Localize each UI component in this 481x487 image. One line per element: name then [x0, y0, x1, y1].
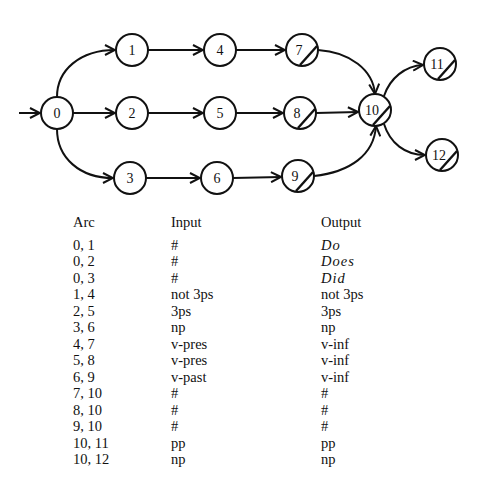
state-label: 0 — [54, 106, 61, 121]
edge-10-11 — [384, 65, 423, 96]
output-cell: Did — [321, 270, 441, 287]
arc-cell: 8, 10 — [73, 402, 171, 419]
input-cell: # — [171, 237, 321, 254]
table-row: 4, 7v-presv-inf — [73, 336, 441, 353]
table-row: 5, 8v-presv-inf — [73, 352, 441, 369]
arc-cell: 6, 9 — [73, 369, 171, 386]
output-cell: np — [321, 451, 441, 468]
input-cell: pp — [171, 435, 321, 452]
input-cell: # — [171, 270, 321, 287]
state-node-6: 6 — [201, 162, 233, 194]
input-cell: # — [171, 402, 321, 419]
arc-table: Arc Input Output 0, 1#Do 0, 2#Does 0, 3#… — [73, 214, 441, 468]
output-cell: v-inf — [321, 352, 441, 369]
output-cell: np — [321, 319, 441, 336]
header-output: Output — [321, 214, 441, 237]
state-node-8: 8 — [284, 97, 316, 129]
edge-0-1 — [57, 50, 115, 97]
output-cell: # — [321, 385, 441, 402]
arc-cell: 0, 2 — [73, 253, 171, 270]
state-label: 12 — [432, 148, 446, 163]
output-cell: # — [321, 418, 441, 435]
state-label: 5 — [217, 106, 224, 121]
output-cell: 3ps — [321, 303, 441, 320]
table-row: 0, 1#Do — [73, 237, 441, 254]
state-node-0: 0 — [41, 97, 73, 129]
arc-cell: 10, 12 — [73, 451, 171, 468]
edge-7-10 — [318, 50, 375, 94]
state-node-1: 1 — [116, 34, 148, 66]
table-row: 10, 12npnp — [73, 451, 441, 468]
input-cell: 3ps — [171, 303, 321, 320]
input-cell: v-pres — [171, 336, 321, 353]
state-node-5: 5 — [204, 97, 236, 129]
state-node-2: 2 — [116, 97, 148, 129]
edge-0-3 — [57, 129, 113, 178]
table-row: 1, 4not 3psnot 3ps — [73, 286, 441, 303]
input-cell: # — [171, 253, 321, 270]
state-label: 10 — [365, 103, 379, 118]
state-label: 1 — [129, 43, 136, 58]
table-row: 10, 11pppp — [73, 435, 441, 452]
output-cell: pp — [321, 435, 441, 452]
arc-cell: 5, 8 — [73, 352, 171, 369]
state-node-7: 7 — [286, 34, 318, 66]
input-cell: v-past — [171, 369, 321, 386]
table-row: 0, 3#Did — [73, 270, 441, 287]
state-label: 8 — [294, 106, 301, 121]
arc-cell: 9, 10 — [73, 418, 171, 435]
table-row: 7, 10## — [73, 385, 441, 402]
state-node-4: 4 — [204, 34, 236, 66]
output-cell: Do — [321, 237, 441, 254]
header-input: Input — [171, 214, 321, 237]
table-row: 8, 10## — [73, 402, 441, 419]
output-cell: Does — [321, 253, 441, 270]
state-node-10: 10 — [359, 94, 391, 126]
state-label: 4 — [217, 43, 224, 58]
state-label: 2 — [129, 106, 136, 121]
state-node-11: 11 — [424, 48, 456, 80]
state-label: 6 — [214, 171, 221, 186]
table-row: 9, 10## — [73, 418, 441, 435]
table-row: 6, 9v-pastv-inf — [73, 369, 441, 386]
state-node-9: 9 — [282, 160, 314, 192]
input-cell: v-pres — [171, 352, 321, 369]
table-row: 0, 2#Does — [73, 253, 441, 270]
state-label: 3 — [127, 171, 134, 186]
edge-8-10 — [316, 112, 358, 113]
input-cell: # — [171, 385, 321, 402]
edge-6-9 — [233, 177, 281, 178]
output-cell: # — [321, 402, 441, 419]
arc-cell: 10, 11 — [73, 435, 171, 452]
state-label: 9 — [292, 169, 299, 184]
table-row: 3, 6npnp — [73, 319, 441, 336]
transducer-diagram: 0123456789101112 — [0, 0, 481, 210]
state-node-3: 3 — [114, 162, 146, 194]
input-cell: # — [171, 418, 321, 435]
table-row: 2, 53ps3ps — [73, 303, 441, 320]
arc-cell: 7, 10 — [73, 385, 171, 402]
input-cell: np — [171, 319, 321, 336]
output-cell: v-inf — [321, 369, 441, 386]
arc-cell: 0, 3 — [73, 270, 171, 287]
arc-cell: 2, 5 — [73, 303, 171, 320]
arc-cell: 4, 7 — [73, 336, 171, 353]
arc-cell: 3, 6 — [73, 319, 171, 336]
state-node-12: 12 — [426, 139, 458, 171]
state-label: 7 — [296, 43, 303, 58]
input-cell: np — [171, 451, 321, 468]
output-cell: v-inf — [321, 336, 441, 353]
edge-9-10 — [314, 126, 376, 176]
arc-cell: 1, 4 — [73, 286, 171, 303]
output-cell: not 3ps — [321, 286, 441, 303]
arc-cell: 0, 1 — [73, 237, 171, 254]
state-label: 11 — [430, 57, 443, 72]
header-arc: Arc — [73, 214, 171, 237]
input-cell: not 3ps — [171, 286, 321, 303]
edge-10-12 — [384, 124, 425, 155]
